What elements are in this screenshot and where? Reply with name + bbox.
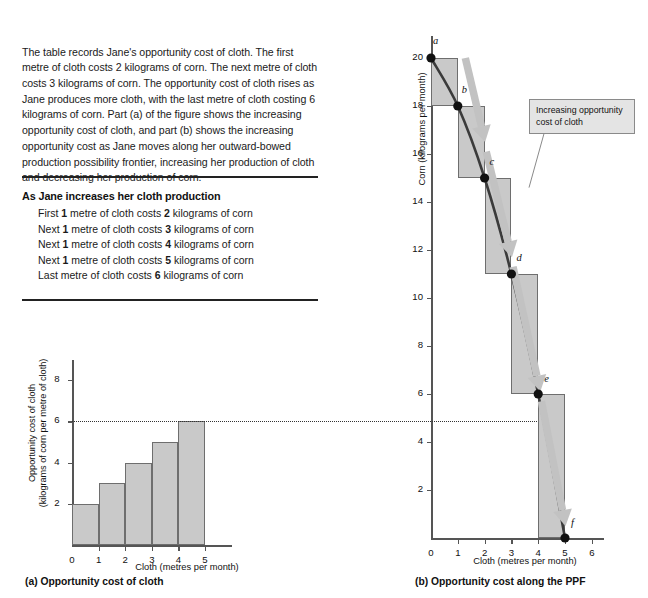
left-column: The table records Jane's opportunity cos… <box>0 0 340 598</box>
chart-b-y-tick-label: 20 <box>405 51 423 62</box>
chart-a-y-axis-label-line1: Opportunity cost of cloth <box>27 384 39 482</box>
cost-row-order: Last <box>38 269 58 281</box>
chart-b-x-tick <box>565 539 566 544</box>
chart-a-y-axis-label-line2: (kilograms of corn per metre of cloth) <box>38 359 50 508</box>
cost-row-cost: 5 <box>165 254 171 266</box>
chart-b-y-tick-label: 16 <box>405 147 423 158</box>
caption-a: (a) Opportunity cost of cloth <box>25 576 163 587</box>
callout-increasing-opportunity-cost: Increasing opportunity cost of cloth <box>529 99 635 134</box>
reference-line-six <box>72 421 537 422</box>
cost-row-mid: metre of cloth costs <box>70 207 161 219</box>
callout-text: Increasing opportunity cost of cloth <box>530 105 623 128</box>
chart-b-y-axis-label-text: Corn (kilograms per month) <box>417 72 427 185</box>
chart-b-y-tick-label: 14 <box>405 195 423 206</box>
chart-b-step-rect <box>458 106 485 178</box>
callout-line-1: Increasing opportunity <box>536 105 623 115</box>
chart-b-y-tick <box>427 106 432 107</box>
chart-b-x-tick-label: 5 <box>557 547 573 558</box>
ppf-point-label: b <box>462 84 467 95</box>
cost-row-cost: 2 <box>164 207 170 219</box>
chart-b-x-tick <box>538 539 539 544</box>
chart-b-y-tick-label: 4 <box>405 435 423 446</box>
cost-table-row: First 1 metre of cloth costs 2 kilograms… <box>38 206 322 222</box>
chart-b-y-tick-label: 18 <box>405 99 423 110</box>
chart-b-y-tick-label: 10 <box>405 291 423 302</box>
chart-a-x-tick-label: 2 <box>117 554 133 565</box>
cost-row-unit: kilograms of corn <box>174 254 254 266</box>
cost-row-unit: kilograms of corn <box>173 207 253 219</box>
chart-b-step-rect <box>538 394 565 538</box>
chart-a-y-tick-label: 2 <box>50 497 64 508</box>
chart-a-x-tick <box>205 546 206 551</box>
chart-a-x-tick-label: 1 <box>91 554 107 565</box>
cost-row-qty: 1 <box>63 254 69 266</box>
chart-b-x-tick-label: 3 <box>503 547 519 558</box>
cost-row-qty: 1 <box>63 223 69 235</box>
chart-b-x-tick-label: 0 <box>423 547 439 558</box>
cost-row-mid: metre of cloth costs <box>71 223 162 235</box>
chart-a-y-tick <box>68 380 73 381</box>
callout-line-2: cost of cloth <box>536 117 583 127</box>
chart-a-x-tick-label: 0 <box>64 554 80 565</box>
chart-b-y-axis <box>431 36 433 538</box>
chart-b-x-tick-label: 4 <box>530 547 546 558</box>
cost-row-cost: 3 <box>165 223 171 235</box>
chart-b-y-tick <box>427 298 432 299</box>
chart-b-y-axis-label: Corn (kilograms per month) <box>413 39 431 219</box>
chart-b-x-tick <box>511 539 512 544</box>
cost-row-qty: 1 <box>61 207 67 219</box>
chart-b-y-tick-label: 12 <box>405 243 423 254</box>
cost-row-order: Next <box>38 254 60 266</box>
chart-a-bar <box>72 504 99 545</box>
ppf-point-label: f <box>571 517 576 528</box>
chart-a-bar <box>152 442 179 545</box>
ppf-point-label: d <box>516 252 522 263</box>
cost-table-row: Next 1 metre of cloth costs 5 kilograms … <box>38 253 322 269</box>
chart-b-y-tick-label: 8 <box>405 339 423 350</box>
chart-b-x-axis-label: Cloth (metres per month) <box>410 556 640 566</box>
chart-a-opportunity-cost-bars: Opportunity cost of cloth (kilograms of … <box>0 318 340 598</box>
chart-b-y-tick <box>427 394 432 395</box>
cost-table-row: Next 1 metre of cloth costs 4 kilograms … <box>38 237 322 253</box>
caption-b: (b) Opportunity cost along the PPF <box>415 576 585 587</box>
divider-bottom <box>22 299 318 301</box>
ppf-point-label: e <box>544 373 549 384</box>
chart-b-x-tick-label: 2 <box>477 547 493 558</box>
chart-a-x-tick <box>178 546 179 551</box>
chart-a-x-tick <box>152 546 153 551</box>
cost-row-order: Next <box>38 238 60 250</box>
cost-row-mid: metre of cloth costs <box>71 254 162 266</box>
chart-a-x-tick <box>99 546 100 551</box>
divider-top <box>22 176 318 178</box>
chart-b-y-tick-label: 2 <box>405 483 423 494</box>
cost-row-unit: kilograms of corn <box>164 269 244 281</box>
cost-row-cost: 6 <box>155 269 161 281</box>
cost-row-unit: kilograms of corn <box>174 223 254 235</box>
figure-page: The table records Jane's opportunity cos… <box>0 0 648 598</box>
cost-table: As Jane increases her cloth production F… <box>22 190 322 284</box>
chart-a-bar <box>99 483 126 545</box>
intro-paragraph: The table records Jane's opportunity cos… <box>22 45 318 186</box>
cost-row-order: Next <box>38 223 60 235</box>
chart-b-y-tick <box>427 346 432 347</box>
chart-a-x-tick-label: 4 <box>170 554 186 565</box>
chart-a-y-tick <box>68 463 73 464</box>
cost-row-qty: 1 <box>63 238 69 250</box>
cost-row-mid: metre of cloth costs <box>61 269 152 281</box>
chart-a-x-tick <box>125 546 126 551</box>
cost-row-unit: kilograms of corn <box>174 238 254 250</box>
cost-table-row: Next 1 metre of cloth costs 3 kilograms … <box>38 222 322 238</box>
chart-a-y-tick-label: 6 <box>50 414 64 425</box>
chart-a-y-tick-label: 8 <box>50 373 64 384</box>
cost-table-heading: As Jane increases her cloth production <box>22 190 322 202</box>
chart-b-y-tick-label: 6 <box>405 387 423 398</box>
chart-a-x-tick-label: 5 <box>197 554 213 565</box>
chart-b-y-tick <box>427 202 432 203</box>
ppf-point-label: a <box>433 35 438 46</box>
chart-b-x-tick <box>458 539 459 544</box>
chart-a-y-tick-label: 4 <box>50 456 64 467</box>
chart-a-bar <box>178 421 205 545</box>
chart-b-y-tick <box>427 490 432 491</box>
chart-b-x-tick-label: 1 <box>450 547 466 558</box>
cost-row-order: First <box>38 207 58 219</box>
